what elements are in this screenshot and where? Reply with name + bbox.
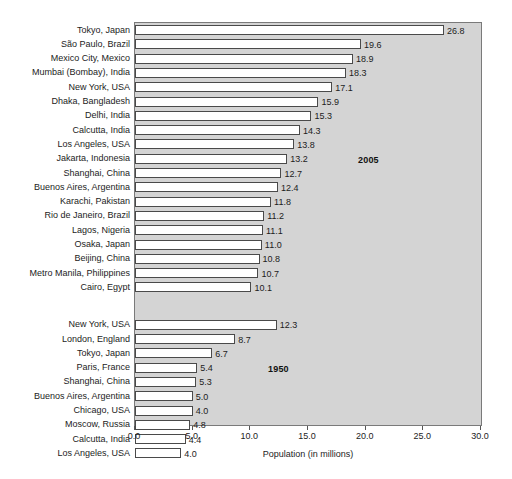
bar-value-label: 15.3 bbox=[314, 111, 332, 121]
bar bbox=[135, 25, 444, 35]
category-label: Jakarta, Indonesia bbox=[0, 153, 130, 163]
x-axis-tick-label: 5.0 bbox=[185, 431, 198, 441]
x-axis-tick bbox=[307, 426, 308, 430]
bar-value-label: 15.9 bbox=[321, 97, 339, 107]
bar bbox=[135, 334, 235, 344]
bar-value-label: 18.9 bbox=[356, 54, 374, 64]
category-label: Buenos Aires, Argentina bbox=[0, 182, 130, 192]
bar-value-label: 11.0 bbox=[265, 240, 282, 250]
bar bbox=[135, 363, 197, 373]
bar bbox=[135, 197, 271, 207]
bar bbox=[135, 168, 281, 178]
category-label: Los Angeles, USA bbox=[0, 139, 130, 149]
category-axis-labels: Tokyo, JapanSão Paulo, BrazilMexico City… bbox=[0, 22, 130, 426]
category-label: São Paulo, Brazil bbox=[0, 39, 130, 49]
category-label: Buenos Aires, Argentina bbox=[0, 391, 130, 401]
population-bar-chart-figure: Tokyo, JapanSão Paulo, BrazilMexico City… bbox=[0, 0, 512, 479]
bar bbox=[135, 139, 294, 149]
bar-value-label: 10.7 bbox=[261, 269, 279, 279]
bar bbox=[135, 182, 278, 192]
category-label: Tokyo, Japan bbox=[0, 25, 130, 35]
bar-value-label: 12.3 bbox=[280, 320, 298, 330]
category-label: London, England bbox=[0, 334, 130, 344]
bar bbox=[135, 406, 193, 416]
bar bbox=[135, 348, 212, 358]
x-axis-tick-label: 10.0 bbox=[241, 431, 259, 441]
bar bbox=[135, 268, 258, 278]
bar-value-label: 11.1 bbox=[266, 226, 283, 236]
bar bbox=[135, 391, 193, 401]
bars-container: 26.819.618.918.317.115.915.314.313.813.2… bbox=[135, 23, 481, 425]
bar bbox=[135, 39, 361, 49]
bar-value-label: 5.4 bbox=[200, 363, 213, 373]
category-label: Los Angeles, USA bbox=[0, 448, 130, 458]
bar bbox=[135, 111, 311, 121]
x-axis-tick-label: 30.0 bbox=[471, 431, 489, 441]
x-axis-tick-label: 20.0 bbox=[356, 431, 374, 441]
category-label: Lagos, Nigeria bbox=[0, 225, 130, 235]
bar-value-label: 5.3 bbox=[199, 377, 212, 387]
bar-value-label: 26.8 bbox=[447, 26, 465, 36]
x-axis-tick bbox=[249, 426, 250, 430]
bar bbox=[135, 125, 300, 135]
category-label: Rio de Janeiro, Brazil bbox=[0, 210, 130, 220]
bar bbox=[135, 320, 277, 330]
bar-value-label: 12.4 bbox=[281, 183, 299, 193]
category-label: Calcutta, India bbox=[0, 125, 130, 135]
bar-value-label: 10.1 bbox=[254, 283, 272, 293]
bar-value-label: 14.3 bbox=[303, 126, 321, 136]
bar-value-label: 11.2 bbox=[267, 211, 284, 221]
bar bbox=[135, 68, 346, 78]
category-label: New York, USA bbox=[0, 82, 130, 92]
category-label: Karachi, Pakistan bbox=[0, 196, 130, 206]
bar bbox=[135, 377, 196, 387]
bar-value-label: 12.7 bbox=[284, 169, 302, 179]
bar bbox=[135, 225, 263, 235]
category-label: Shanghai, China bbox=[0, 376, 130, 386]
category-label: Calcutta, India bbox=[0, 434, 130, 444]
category-label: Osaka, Japan bbox=[0, 239, 130, 249]
x-axis-tick-label: 15.0 bbox=[298, 431, 316, 441]
x-axis-tick bbox=[134, 426, 135, 430]
category-label: Paris, France bbox=[0, 362, 130, 372]
bar bbox=[135, 54, 353, 64]
bar-value-label: 4.0 bbox=[196, 406, 209, 416]
category-label: Tokyo, Japan bbox=[0, 348, 130, 358]
x-axis-tick-label: 0.0 bbox=[128, 431, 141, 441]
bar-value-label: 18.3 bbox=[349, 68, 367, 78]
category-label: Mexico City, Mexico bbox=[0, 53, 130, 63]
bar-value-label: 19.6 bbox=[364, 40, 382, 50]
bar-value-label: 8.7 bbox=[238, 335, 251, 345]
x-axis-tick bbox=[192, 426, 193, 430]
x-axis-tick bbox=[480, 426, 481, 430]
category-label: Dhaka, Bangladesh bbox=[0, 96, 130, 106]
bar bbox=[135, 97, 318, 107]
group-label-2005: 2005 bbox=[358, 155, 379, 165]
bar-value-label: 13.8 bbox=[297, 140, 315, 150]
x-axis-tick bbox=[422, 426, 423, 430]
x-axis-tick-label: 25.0 bbox=[414, 431, 432, 441]
bar bbox=[135, 211, 264, 221]
category-label: Mumbai (Bombay), India bbox=[0, 67, 130, 77]
x-axis-title: Population (in millions) bbox=[134, 449, 482, 459]
bar-value-label: 6.7 bbox=[215, 349, 228, 359]
bar-value-label: 11.8 bbox=[274, 197, 291, 207]
bar-value-label: 13.2 bbox=[290, 154, 308, 164]
category-label: New York, USA bbox=[0, 319, 130, 329]
category-label: Delhi, India bbox=[0, 110, 130, 120]
category-label: Chicago, USA bbox=[0, 405, 130, 415]
x-axis-tick bbox=[365, 426, 366, 430]
bar bbox=[135, 154, 287, 164]
bar-value-label: 5.0 bbox=[196, 392, 209, 402]
category-label: Metro Manila, Philippines bbox=[0, 268, 130, 278]
bar-value-label: 10.8 bbox=[263, 254, 281, 264]
group-label-1950: 1950 bbox=[268, 364, 289, 374]
bar-value-label: 17.1 bbox=[335, 83, 353, 93]
category-label: Moscow, Russia bbox=[0, 419, 130, 429]
bar bbox=[135, 282, 251, 292]
bar bbox=[135, 82, 332, 92]
category-label: Beijing, China bbox=[0, 253, 130, 263]
category-label: Shanghai, China bbox=[0, 168, 130, 178]
bar bbox=[135, 254, 260, 264]
bar bbox=[135, 240, 262, 250]
